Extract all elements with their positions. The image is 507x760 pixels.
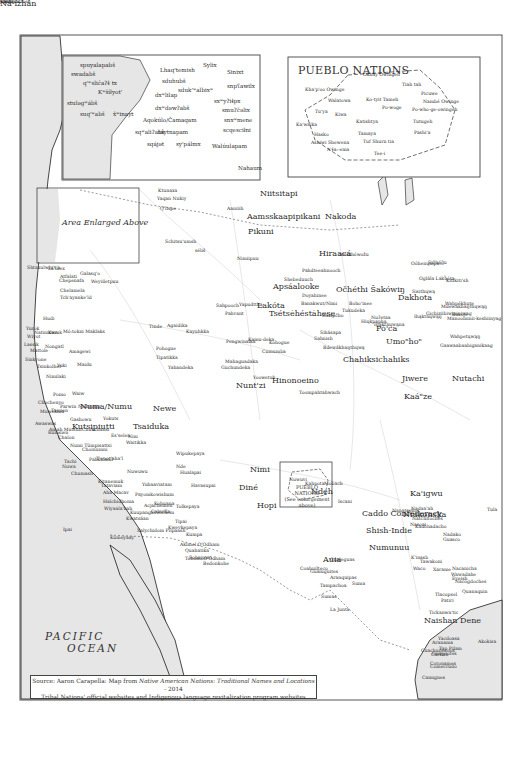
nation-label-small: Tipatikka bbox=[156, 356, 178, 361]
nation-label-small: Akimel O'Odham bbox=[180, 543, 219, 548]
nation-label-small: Yaqan Nukiy bbox=[157, 197, 186, 202]
pueblo-nation-label: Tiah tah bbox=[402, 83, 421, 88]
nation-label-small: La'mex bbox=[48, 267, 65, 272]
nation-label-small: Guasco bbox=[443, 538, 460, 543]
nw-inset-nation-label: sduk'ʷalbixʷ bbox=[178, 88, 213, 94]
nation-label-small: Quahatika bbox=[185, 549, 209, 554]
nation-label-small: Kahpota bbox=[305, 482, 324, 487]
nation-label-large: Pikuni bbox=[248, 228, 274, 236]
nw-inset-nation-label: stulǝgʷábš bbox=[67, 101, 97, 107]
nation-label-small: Choinumni bbox=[82, 448, 107, 453]
nation-label-small: Waiw bbox=[72, 392, 84, 397]
nation-label-small: Schitsu'umsh bbox=[165, 240, 196, 245]
nation-label-small: Gualeguas bbox=[330, 558, 355, 563]
nation-label-small: Cuachuilecoos bbox=[421, 649, 455, 654]
nation-label-small: Tawakoni bbox=[420, 560, 442, 565]
nation-label-small: Chukchansi bbox=[82, 428, 109, 433]
ocean-label-line2: OCEAN bbox=[45, 642, 118, 654]
pueblo-nation-label: Po-who-ge-owingeh bbox=[412, 108, 457, 113]
nation-label-large: Nunt'zi bbox=[236, 382, 266, 390]
nw-inset-nation-label: Lhaq'temish bbox=[160, 68, 195, 74]
nation-label-small: Itázipčho bbox=[322, 314, 344, 319]
nation-label-small: Yuki bbox=[57, 364, 67, 369]
nation-label-small: Agaidika bbox=[167, 324, 187, 329]
source-line2: Tribal Nations' official websites and In… bbox=[31, 694, 316, 702]
pueblo-nation-label: Tamaya bbox=[358, 132, 376, 137]
nation-label-small: Nadaa'ah bbox=[411, 507, 433, 512]
nation-label-small: Patiri bbox=[441, 599, 454, 604]
nw-inset-nation-label: suq'ʷabš bbox=[80, 112, 105, 118]
nation-label-small: Galasq'o bbox=[80, 272, 100, 277]
nation-label-small: Kumeyaay bbox=[110, 536, 134, 541]
nation-label-small: Ipai bbox=[63, 528, 72, 533]
nation-label-small: Kohuana bbox=[154, 502, 174, 507]
nation-label-small: Wiyot bbox=[27, 335, 40, 340]
nation-label-small: Nimiipuu bbox=[237, 257, 259, 262]
nation-label-small: Gashowu bbox=[70, 418, 91, 423]
nation-label-small: Tinde bbox=[149, 325, 162, 330]
pueblo-nation-label: Hasko bbox=[314, 133, 329, 138]
pueblo-nation-label: Ka'waika bbox=[296, 123, 317, 128]
nw-inset-nation-label: Sinixt bbox=[227, 70, 243, 76]
nation-label-large: Hopi bbox=[257, 502, 276, 510]
nation-label-small: Ktunaxa bbox=[158, 189, 177, 194]
nation-label-small: Chepenafa bbox=[59, 279, 84, 284]
nation-label-small: Guaiuguites bbox=[310, 570, 338, 575]
nation-label-large: Nimi bbox=[250, 466, 270, 474]
pueblo-small-box-line2: (See enlargement above) bbox=[283, 496, 331, 508]
nation-label-small: Mó:tokni Maklaks bbox=[63, 330, 105, 335]
nation-label-small: Suma bbox=[352, 582, 365, 587]
nation-label-small: Kwatsáan bbox=[126, 517, 149, 522]
pueblo-nation-label: Picuwe bbox=[421, 92, 438, 97]
nw-inset-nation-label: swadabš bbox=[71, 72, 95, 78]
nation-label-large: Numunuu bbox=[369, 544, 409, 552]
pueblo-nation-label: Kha'p'oo Owinge bbox=[305, 88, 344, 93]
nation-label-small: Natchitoches bbox=[412, 517, 443, 522]
nation-label-small: Tamien bbox=[51, 409, 68, 414]
nw-inset-nation-label: snpʕawilx bbox=[227, 84, 255, 90]
pueblo-nation-label: A'ɬa:-ema bbox=[327, 148, 349, 153]
nation-label-small: Sumas bbox=[321, 595, 337, 600]
nation-label-small: Waitikka bbox=[126, 441, 146, 446]
nation-label-small: Aranquipas bbox=[330, 576, 357, 581]
nation-label-small: Gaawaabaabiganikaag bbox=[440, 344, 493, 349]
nation-label-small: Havasupai bbox=[191, 484, 216, 489]
nation-label-small: Yokuts bbox=[103, 417, 118, 422]
nation-label-small: Doyahinee bbox=[302, 294, 327, 299]
nation-label-small: Kohogue bbox=[269, 341, 289, 346]
nation-label-small: Sobaipuri bbox=[189, 556, 212, 561]
nation-label-small: Banakwut/Nimi bbox=[301, 302, 337, 307]
pueblo-nation-label: Tu'ya bbox=[315, 110, 328, 115]
nation-label-large: Nakoda bbox=[325, 213, 356, 221]
source-caption: Source: Aaron Carapella: Map from Native… bbox=[30, 675, 317, 699]
nation-label-small: Tch'ayanke'ld bbox=[60, 296, 92, 301]
nation-label-small: Hudi bbox=[43, 317, 54, 322]
nation-label-small: Pomo bbox=[53, 393, 66, 398]
nation-label-small: Hualapai bbox=[180, 471, 201, 476]
nw-inset-nation-label: scqesciłni bbox=[223, 128, 251, 134]
nation-label-large: Nutachi bbox=[452, 375, 484, 383]
source-year: - 2014 bbox=[164, 686, 183, 692]
nation-label-small: Pahvant bbox=[225, 312, 244, 317]
nation-label-small: Camignes bbox=[422, 676, 445, 681]
nation-label-large: Tsaiduka bbox=[133, 423, 169, 431]
nation-label-small: Nuwa bbox=[62, 465, 76, 470]
nation-label-small: Maidu bbox=[77, 363, 92, 368]
nation-label-large: Naishan Dene bbox=[424, 617, 481, 625]
nation-label-small: Ihąkthųwąna bbox=[374, 323, 404, 328]
nation-label-large: Diné bbox=[239, 484, 258, 492]
nation-label-large: Umoⁿhoⁿ bbox=[386, 338, 422, 346]
nation-label-small: Payomkowishum bbox=[135, 493, 174, 498]
nation-label-small: Chalon bbox=[58, 436, 74, 441]
nation-label-small: Toompahtahwach bbox=[299, 391, 340, 396]
nw-inset-nation-label: sxʷyʔiɬpx bbox=[214, 99, 241, 105]
nation-label-small: Tula bbox=[487, 508, 497, 513]
nation-label-small: Wiyaala'bah bbox=[104, 507, 132, 512]
nation-label-small: Nacogdoches bbox=[455, 580, 486, 585]
nation-label-small: Nimilaki bbox=[46, 375, 66, 380]
nation-label-small: Cumumba bbox=[262, 350, 286, 355]
pueblo-nation-label: Walatowa bbox=[328, 99, 351, 104]
nw-inset-nation-label: q'ʷslic̓aʔɬ tx bbox=[83, 81, 117, 87]
nation-label-small: Q'lispe bbox=[160, 207, 176, 212]
nation-label-small: Ihąkthųwąŋ bbox=[414, 315, 442, 320]
